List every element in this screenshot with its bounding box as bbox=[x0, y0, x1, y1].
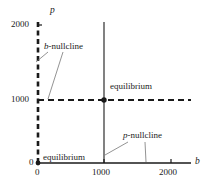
p-nullcline-leader-1 bbox=[105, 142, 128, 155]
b-nullcline-label-rest: -nullcline bbox=[49, 41, 84, 51]
y-tick-label-2000: 2000 bbox=[11, 20, 29, 29]
x-tick-label-0: 0 bbox=[35, 168, 40, 177]
equilibrium-origin-label: equilibrium bbox=[43, 153, 85, 162]
equilibrium-interior-label: equilibrium bbox=[110, 82, 152, 91]
x-axis-name: b bbox=[195, 157, 200, 167]
p-nullcline-leader-2 bbox=[145, 142, 146, 162]
y-tick-label-1000: 1000 bbox=[11, 95, 29, 104]
b-nullcline-label: b-nullcline bbox=[44, 42, 83, 51]
equilibrium-point-origin bbox=[36, 161, 41, 166]
nullcline-phase-plane-figure: p b 2000 1000 0 0 1000 2000 b-nullcline … bbox=[0, 0, 206, 193]
p-nullcline-label: p-nullcline bbox=[123, 131, 162, 140]
b-nullcline-leader-2 bbox=[48, 52, 63, 99]
y-axis-name: p bbox=[50, 6, 55, 16]
x-tick-label-2000: 2000 bbox=[159, 168, 177, 177]
x-tick-label-1000: 1000 bbox=[92, 168, 110, 177]
p-nullcline-label-rest: -nullcline bbox=[128, 130, 163, 140]
equilibrium-point-interior bbox=[101, 97, 106, 102]
y-tick-label-0: 0 bbox=[29, 158, 34, 167]
